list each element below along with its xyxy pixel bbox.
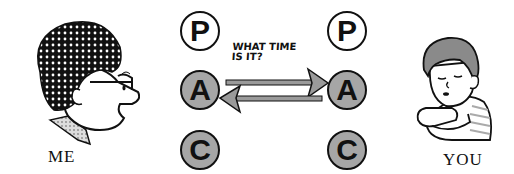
man-profile-icon <box>20 12 140 147</box>
adult-letter: A <box>336 75 358 105</box>
left-adult-ego-state: A <box>180 70 220 110</box>
me-figure <box>20 12 140 147</box>
left-child-ego-state: C <box>180 130 220 170</box>
boy-checking-watch-icon <box>412 36 494 142</box>
adult-letter: A <box>189 75 211 105</box>
right-child-ego-state: C <box>327 130 367 170</box>
message-line-2: IS IT? <box>231 52 296 62</box>
parent-letter: P <box>190 16 210 46</box>
parent-letter: P <box>337 16 357 46</box>
you-figure <box>412 36 494 142</box>
child-letter: C <box>336 135 358 165</box>
transaction-message: WHAT TIME IS IT? <box>231 42 296 62</box>
you-label: YOU <box>443 150 483 170</box>
me-label: ME <box>48 147 76 167</box>
child-letter: C <box>189 135 211 165</box>
arrow-left-icon <box>220 86 322 112</box>
left-parent-ego-state: P <box>180 11 220 51</box>
right-adult-ego-state: A <box>327 70 367 110</box>
transaction-arrows <box>218 66 330 116</box>
right-parent-ego-state: P <box>327 11 367 51</box>
arrow-right-icon <box>226 69 328 97</box>
